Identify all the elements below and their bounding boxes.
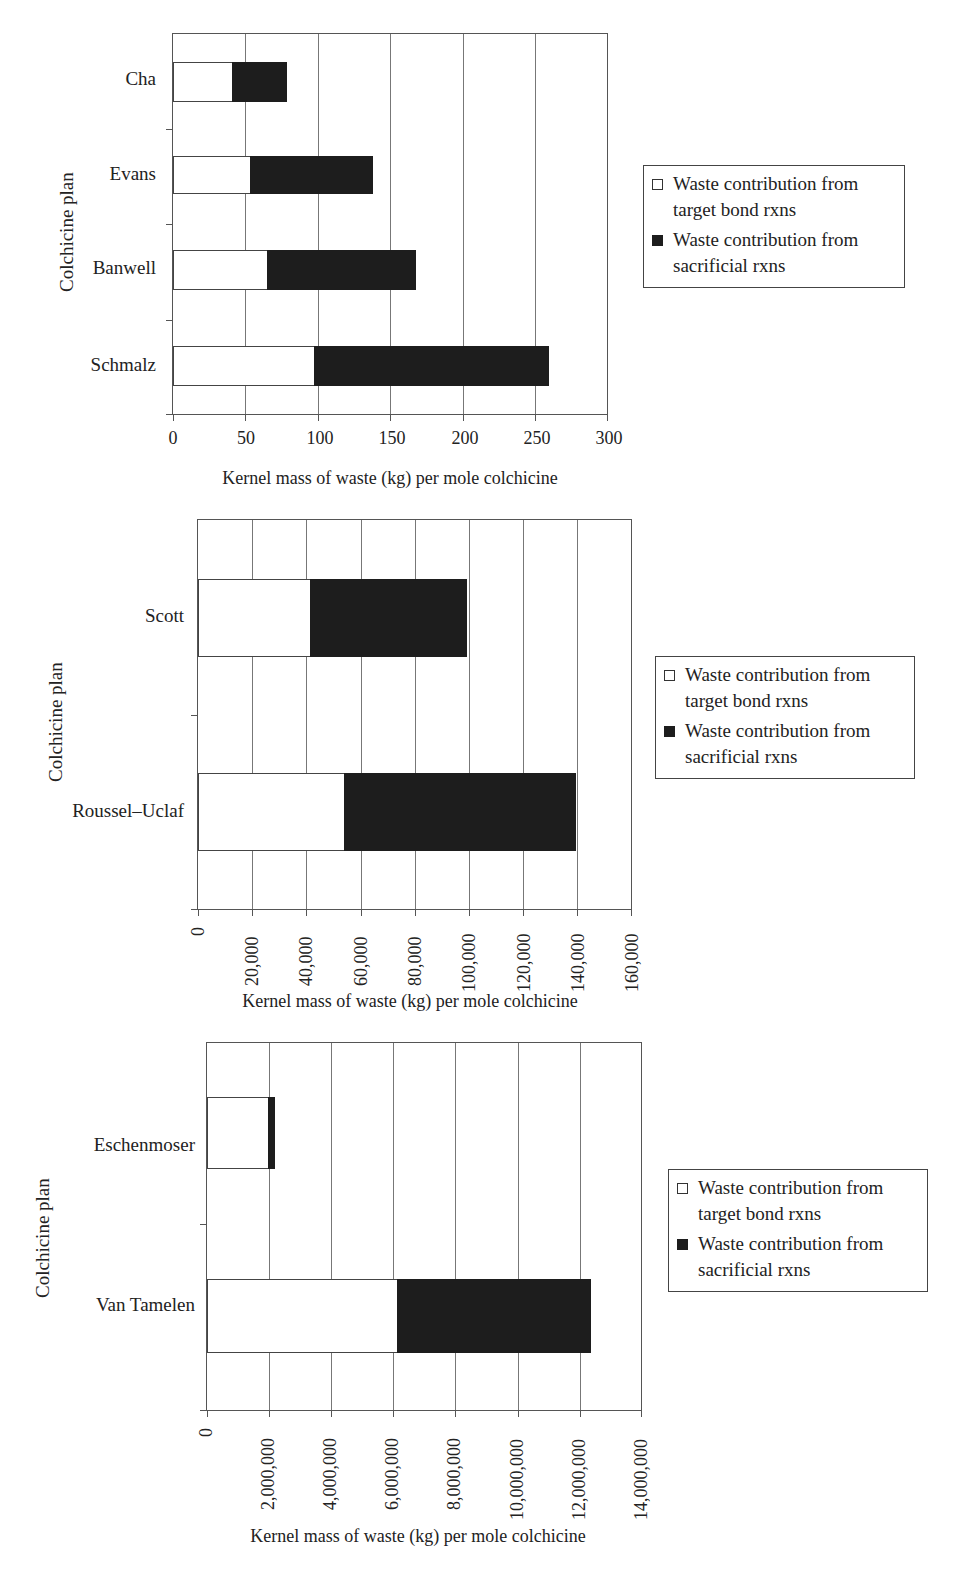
x-tick-label: 80,000 [405, 937, 426, 987]
legend-item-target: Waste contribution fromtarget bond rxns [677, 1175, 921, 1227]
black-square-icon [664, 726, 675, 737]
x-tick-label: 14,000,000 [631, 1439, 652, 1520]
legend-item-sacrificial: Waste contribution fromsacrificial rxns [664, 718, 908, 770]
x-tick-label: 6,000,000 [382, 1438, 403, 1510]
white-square-icon [664, 670, 675, 681]
plot-area [172, 33, 608, 415]
category-label: Evans [110, 163, 156, 185]
x-tick-label: 120,000 [514, 934, 535, 993]
x-tick-label: 300 [596, 428, 623, 449]
y-axis-label: Colchicine plan [56, 172, 78, 292]
x-tick-label: 0 [188, 927, 209, 936]
x-tick-label: 50 [237, 428, 255, 449]
bar-target-banwell [173, 250, 267, 290]
bar-target-scott [198, 579, 310, 657]
legend: Waste contribution fromtarget bond rxns … [655, 656, 915, 779]
x-tick-label: 150 [379, 428, 406, 449]
white-square-icon [677, 1183, 688, 1194]
category-label: Cha [125, 68, 156, 90]
x-tick-label: 200 [452, 428, 479, 449]
category-label: Roussel–Uclaf [72, 800, 184, 822]
x-tick-label: 60,000 [351, 937, 372, 987]
x-tick-label: 0 [169, 428, 178, 449]
bar-target-roussel-uclaf [198, 773, 344, 851]
x-tick-label: 12,000,000 [569, 1439, 590, 1520]
legend-item-sacrificial: Waste contribution fromsacrificial rxns [652, 227, 898, 279]
legend-item-target: Waste contribution fromtarget bond rxns [664, 662, 908, 714]
bar-sacrificial-scott [310, 579, 467, 657]
bar-sacrificial-schmalz [314, 346, 549, 386]
bar-target-eschenmoser [207, 1097, 268, 1169]
x-axis-label: Kernel mass of waste (kg) per mole colch… [250, 1526, 585, 1547]
bar-sacrificial-van-tamelen [397, 1279, 591, 1353]
x-axis-label: Kernel mass of waste (kg) per mole colch… [222, 468, 557, 489]
x-axis-label: Kernel mass of waste (kg) per mole colch… [242, 991, 577, 1012]
x-tick-label: 0 [196, 1428, 217, 1437]
x-tick-label: 20,000 [242, 937, 263, 987]
y-axis-label: Colchicine plan [45, 662, 67, 782]
bar-sacrificial-banwell [267, 250, 416, 290]
x-tick-label: 250 [524, 428, 551, 449]
category-label: Scott [145, 605, 184, 627]
bar-sacrificial-eschenmoser [268, 1097, 275, 1169]
category-label: Banwell [93, 257, 156, 279]
legend-item-sacrificial: Waste contribution fromsacrificial rxns [677, 1231, 921, 1283]
bar-target-evans [173, 156, 250, 194]
x-tick-label: 100,000 [459, 934, 480, 993]
black-square-icon [677, 1239, 688, 1250]
bar-sacrificial-roussel-uclaf [344, 773, 576, 851]
bar-target-schmalz [173, 346, 314, 386]
white-square-icon [652, 179, 663, 190]
bar-target-van-tamelen [207, 1279, 397, 1353]
x-tick-label: 8,000,000 [444, 1438, 465, 1510]
x-tick-label: 10,000,000 [507, 1439, 528, 1520]
legend: Waste contribution fromtarget bond rxns … [643, 165, 905, 288]
bar-sacrificial-evans [250, 156, 373, 194]
bar-sacrificial-cha [232, 62, 287, 102]
x-tick-label: 140,000 [568, 934, 589, 993]
x-tick-label: 160,000 [622, 934, 643, 993]
x-tick-label: 2,000,000 [258, 1438, 279, 1510]
bar-target-cha [173, 62, 232, 102]
x-tick-label: 40,000 [296, 937, 317, 987]
x-tick-label: 100 [307, 428, 334, 449]
black-square-icon [652, 235, 663, 246]
plot-area [206, 1042, 642, 1411]
plot-area [197, 519, 632, 910]
y-axis-label: Colchicine plan [32, 1178, 54, 1298]
x-tick-label: 4,000,000 [320, 1438, 341, 1510]
category-label: Eschenmoser [94, 1134, 195, 1156]
legend-item-target: Waste contribution fromtarget bond rxns [652, 171, 898, 223]
category-label: Van Tamelen [96, 1294, 195, 1316]
category-label: Schmalz [91, 354, 156, 376]
legend: Waste contribution fromtarget bond rxns … [668, 1169, 928, 1292]
